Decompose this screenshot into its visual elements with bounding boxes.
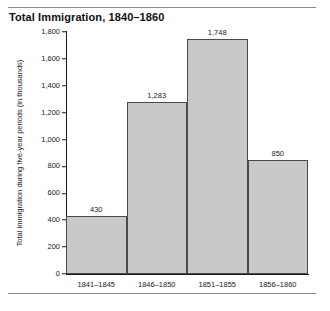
y-axis-tick-mark <box>62 32 66 33</box>
y-axis-tick-label: 400 <box>47 216 60 224</box>
bar <box>127 102 188 274</box>
y-axis-tick-label: 600 <box>47 190 60 198</box>
y-axis-tick: 800 <box>47 163 66 171</box>
x-axis-tick-label: 1856–1860 <box>259 280 297 289</box>
x-axis-line <box>66 274 309 275</box>
y-axis-tick-mark <box>62 166 66 167</box>
bar <box>187 39 248 274</box>
immigration-bar-chart-figure: Total Immigration, 1840–1860 Total immig… <box>0 0 330 311</box>
bottom-divider-rule <box>8 293 316 294</box>
y-axis-tick-mark <box>62 139 66 140</box>
bar <box>66 216 127 274</box>
y-axis-tick-label: 1,400 <box>41 82 60 90</box>
y-axis-tick-mark <box>62 193 66 194</box>
y-axis-tick-mark <box>62 85 66 86</box>
y-axis-tick: 200 <box>47 243 66 251</box>
y-axis-tick: 1,400 <box>41 82 66 90</box>
bar-value-label: 430 <box>90 205 103 214</box>
bar-value-label: 850 <box>271 149 284 158</box>
y-axis-tick-label: 200 <box>47 243 60 251</box>
y-axis-tick-label: 1,600 <box>41 55 60 63</box>
y-axis-tick-label: 800 <box>47 163 60 171</box>
y-axis-tick: 600 <box>47 190 66 198</box>
y-axis-tick: 0 <box>56 270 66 278</box>
y-axis-tick-mark <box>62 58 66 59</box>
y-axis-tick: 1,600 <box>41 55 66 63</box>
chart-title: Total Immigration, 1840–1860 <box>9 11 164 23</box>
y-axis-tick-label: 1,800 <box>41 28 60 36</box>
y-axis-tick: 1,800 <box>41 28 66 36</box>
y-axis-title: Total immigration during five-year perio… <box>14 32 26 274</box>
y-axis-tick-label: 0 <box>56 270 60 278</box>
x-axis-tick-label: 1841–1845 <box>77 280 115 289</box>
top-divider-rule <box>8 7 316 8</box>
y-axis-tick-label: 1,000 <box>41 136 60 144</box>
y-axis-tick: 1,000 <box>41 136 66 144</box>
bar-value-label: 1,748 <box>208 28 227 37</box>
bar-value-label: 1,283 <box>147 91 166 100</box>
bar <box>248 160 309 274</box>
y-axis-tick-label: 1,200 <box>41 109 60 117</box>
x-axis-tick-label: 1851–1855 <box>198 280 236 289</box>
y-axis-tick: 1,200 <box>41 109 66 117</box>
y-axis-tick-mark <box>62 112 66 113</box>
x-axis-tick-label: 1846–1850 <box>138 280 176 289</box>
y-axis-tick: 400 <box>47 216 66 224</box>
